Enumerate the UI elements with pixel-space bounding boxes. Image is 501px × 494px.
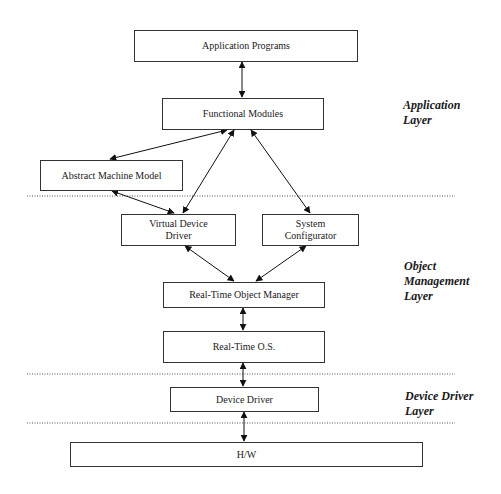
- box-abstract-machine-model: Abstract Machine Model: [40, 160, 183, 191]
- box-label: Virtual Device Driver: [149, 218, 208, 242]
- layer-label-object-management: Object Management Layer: [404, 259, 469, 304]
- box-label: System Configurator: [285, 218, 337, 242]
- arrow-vdd-rtom: [185, 246, 234, 281]
- box-hw: H/W: [70, 442, 423, 467]
- arrow-fm-vdd: [183, 130, 234, 213]
- box-functional-modules: Functional Modules: [162, 98, 324, 130]
- arrow-sc-rtom: [256, 246, 306, 281]
- connectors: [0, 0, 501, 494]
- layer-label-device-driver: Device Driver Layer: [405, 389, 473, 419]
- box-label: H/W: [237, 449, 256, 461]
- arrow-amm-vdd: [112, 191, 174, 213]
- box-label: Real-Time O.S.: [213, 341, 276, 353]
- box-application-programs: Application Programs: [134, 30, 358, 62]
- box-device-driver: Device Driver: [170, 387, 319, 412]
- box-label: Application Programs: [202, 40, 290, 52]
- arrow-fm-sc: [251, 130, 310, 213]
- box-label: Abstract Machine Model: [62, 170, 162, 182]
- box-rt-os: Real-Time O.S.: [163, 331, 325, 363]
- box-label: Device Driver: [216, 394, 273, 406]
- box-label: Functional Modules: [203, 108, 283, 120]
- arrow-fm-amm: [110, 130, 227, 159]
- box-rt-object-manager: Real-Time Object Manager: [163, 282, 325, 308]
- box-system-configurator: System Configurator: [262, 214, 359, 246]
- box-virtual-device-driver: Virtual Device Driver: [121, 214, 236, 246]
- layer-label-application: Application Layer: [403, 98, 460, 128]
- box-label: Real-Time Object Manager: [189, 289, 299, 301]
